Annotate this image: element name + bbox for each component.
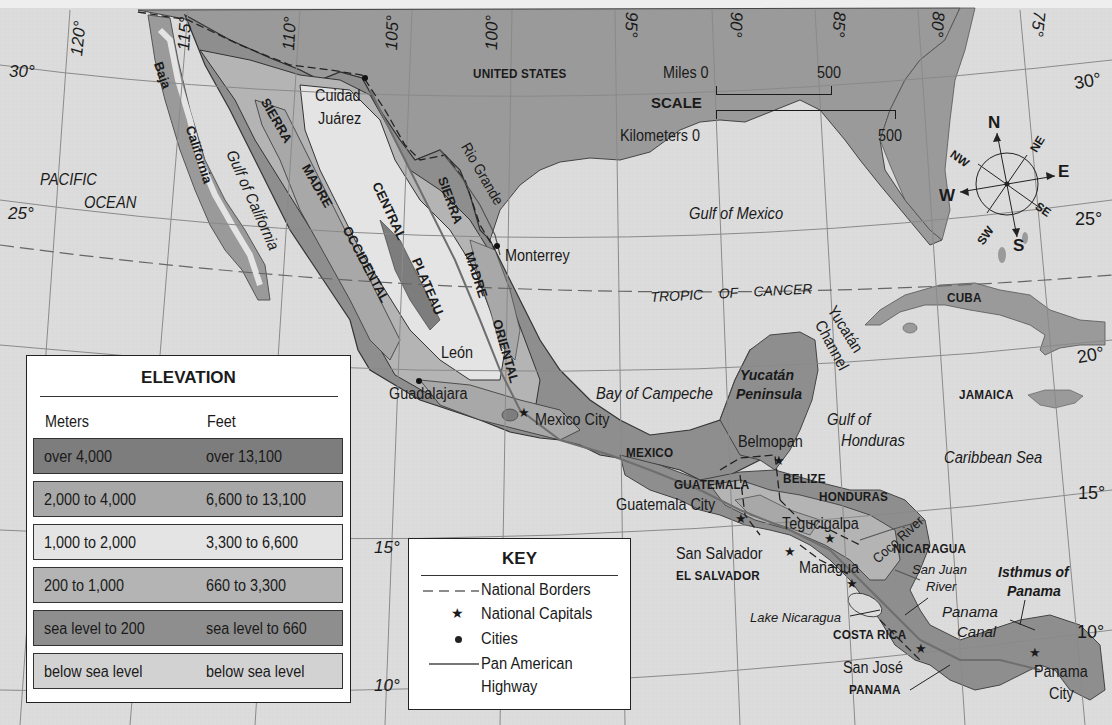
label-caribbean-sea: Caribbean Sea [944,450,1042,466]
capital-star-belmopan: ★ [773,454,785,467]
city-dot-ciudad-juarez [362,75,368,81]
star-icon: ★ [451,605,464,621]
longitude-label-95: 95° [623,12,640,38]
elevation-row-200-1000: 200 to 1,000 660 to 3,300 [33,567,343,603]
elevation-meters: 1,000 to 2,000 [44,534,136,552]
scale-miles-label: Miles 0 [663,65,709,81]
elevation-header-feet: Feet [207,413,236,431]
label-yucatan-peninsula-line1: Yucatán [740,368,794,382]
latitude-label-25-left: 25° [8,205,34,222]
key-item-pan-american: Pan American [481,655,573,673]
label-cuba: CUBA [947,291,982,304]
elevation-row-below-sea: below sea level below sea level [33,653,343,689]
capital-star-managua: ★ [846,577,858,590]
key-legend-title: KEY [409,549,630,569]
label-gulf-of-honduras-line1: Gulf of [827,412,870,428]
label-guatemala: GUATEMALA [674,478,750,491]
longitude-label-85: 85° [830,11,848,38]
map-key-legend: KEY National Borders ★ National Capitals… [408,538,631,710]
longitude-label-115: 115° [175,16,194,51]
elevation-feet: 660 to 3,300 [206,577,286,595]
label-mexico: MEXICO [626,446,673,459]
elevation-meters: 200 to 1,000 [44,577,124,595]
label-managua: Managua [799,560,859,576]
elevation-row-sea-200: sea level to 200 sea level to 660 [33,610,343,646]
label-leon: León [441,345,473,361]
elevation-row-1000-2000: 1,000 to 2,000 3,300 to 6,600 [33,524,343,560]
scale-km-max: 500 [878,128,902,144]
key-item-national-borders: National Borders [481,581,591,599]
compass-n: N [988,114,1000,131]
elevation-feet: sea level to 660 [206,620,307,638]
label-lake-nicaragua: Lake Nicaragua [750,611,841,624]
label-gulf-of-mexico: Gulf of Mexico [689,206,783,222]
scale-km-label: Kilometers 0 [620,128,700,144]
label-san-juan-river-line2: River [926,580,956,593]
elevation-header-meters: Meters [45,413,89,431]
capital-star-mexico-city: ★ [518,406,530,419]
elevation-feet: over 13,100 [206,448,282,466]
label-yucatan-peninsula-line2: Peninsula [736,387,802,401]
elevation-feet: 3,300 to 6,600 [206,534,298,552]
label-panama: PANAMA [849,683,901,696]
label-guatemala-city: Guatemala City [616,497,715,513]
elevation-feet: 6,600 to 13,100 [206,491,306,509]
latitude-label-30-right: 30° [1073,70,1103,92]
label-isthmus-of-panama-line1: Isthmus of [998,565,1069,579]
latitude-label-15-left: 15° [374,539,400,556]
elevation-row-over-4000: over 4,000 over 13,100 [33,438,343,474]
label-panama-canal-line2: Canal [957,624,996,639]
dashed-line-icon [423,589,479,593]
label-monterrey: Monterrey [505,248,570,264]
label-honduras: HONDURAS [819,490,888,503]
scale-bar-miles [716,86,832,95]
latitude-label-10-left: 10° [374,677,400,694]
scale-miles-max: 500 [817,65,841,81]
label-panama-city-line2: City [1049,686,1074,702]
key-item-highway: Highway [481,678,537,696]
key-legend-divider [421,575,618,576]
physical-map: 120° 115° 110° 105° 100° 95° 90° 85° 80°… [0,0,1112,725]
label-pacific-ocean-line1: PACIFIC [40,172,97,188]
elevation-row-2000-4000: 2,000 to 4,000 6,600 to 13,100 [33,481,343,517]
dot-icon [455,636,462,643]
compass-w: W [939,187,955,204]
label-pacific-ocean-line2: OCEAN [84,195,136,211]
key-item-cities: Cities [481,630,518,648]
capital-star-panama-city: ★ [1029,646,1041,659]
label-panama-city-line1: Panama [1034,664,1088,680]
longitude-label-75: 75° [1028,10,1048,37]
elevation-meters: 2,000 to 4,000 [44,491,136,509]
label-ciudad-juarez-line2: Juárez [318,111,361,127]
label-san-juan-river-line1: San Juan [912,563,967,576]
label-belize: BELIZE [783,472,826,485]
scale-bar-km [716,110,896,119]
longitude-label-105: 105° [383,15,401,51]
longitude-label-120: 120° [68,20,89,57]
city-dot-monterrey [494,243,500,249]
key-item-national-capitals: National Capitals [481,605,592,623]
capital-star-guatemala-city: ★ [735,512,747,525]
latitude-label-25-right: 25° [1075,210,1102,228]
compass-e: E [1058,163,1069,180]
label-gulf-of-honduras-line2: Honduras [841,433,905,449]
label-belmopan: Belmopan [738,434,803,450]
latitude-label-15-right: 15° [1078,484,1105,502]
city-dot-guadalajara [416,378,422,384]
label-mexico-city: Mexico City [535,412,609,428]
solid-line-icon [429,662,479,666]
longitude-label-90: 90° [727,11,745,37]
label-san-jose: San José [843,660,903,676]
elevation-legend: ELEVATION Meters Feet over 4,000 over 13… [26,355,351,703]
label-san-salvador: San Salvador [676,546,762,562]
elevation-feet: below sea level [206,663,304,681]
label-united-states: UNITED STATES [473,67,567,80]
elevation-meters: sea level to 200 [44,620,145,638]
latitude-label-20-right: 20° [1076,344,1106,366]
label-jamaica: JAMAICA [959,388,1014,401]
label-tegucigalpa: Tegucigalpa [782,516,859,532]
label-el-salvador: EL SALVADOR [676,569,760,582]
scale-title: SCALE [651,95,702,110]
label-costa-rica: COSTA RICA [833,628,906,641]
label-guadalajara: Guadalajara [389,386,467,402]
